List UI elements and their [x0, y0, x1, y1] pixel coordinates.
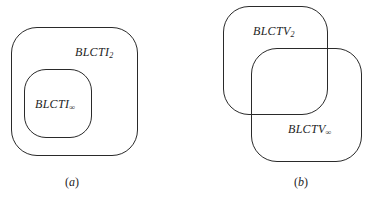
set-blctv-inf-label: BLCTV∞	[288, 122, 331, 137]
set-blcti-2-label: BLCTI2	[75, 45, 113, 60]
set-blcti-inf-label: BLCTI∞	[35, 97, 75, 112]
caption-letter: a	[69, 175, 75, 189]
label-base: BLCTI	[75, 45, 109, 59]
label-base: BLCTI	[35, 97, 69, 111]
caption-a: (a)	[65, 175, 79, 190]
label-base: BLCTV	[253, 24, 291, 38]
caption-letter: b	[298, 175, 304, 189]
label-subscript: 2	[109, 51, 113, 60]
set-blctv-inf-box	[251, 48, 362, 162]
caption-b: (b)	[294, 175, 308, 190]
label-subscript: 2	[291, 30, 295, 39]
label-base: BLCTV	[288, 122, 326, 136]
set-blctv-2-label: BLCTV2	[253, 24, 295, 39]
label-subscript: ∞	[69, 103, 75, 112]
label-subscript: ∞	[326, 128, 332, 137]
